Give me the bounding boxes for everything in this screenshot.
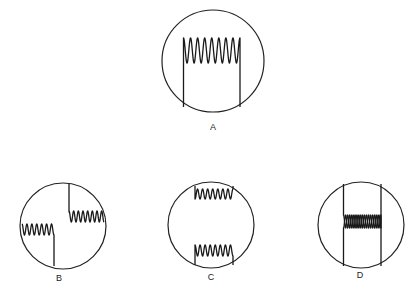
panel-label-b: B xyxy=(56,273,62,283)
scope-screen-a xyxy=(162,10,264,112)
panel-d xyxy=(318,182,404,268)
panel-a xyxy=(162,10,264,112)
panel-label-c: C xyxy=(208,272,215,282)
oscilloscope-figure xyxy=(0,0,419,297)
panel-label-a: A xyxy=(210,122,216,132)
waveform-c-bottom xyxy=(195,245,233,265)
waveform-c-top xyxy=(195,186,233,199)
panel-c xyxy=(168,182,254,268)
panel-label-d: D xyxy=(357,270,364,280)
waveform-b-left xyxy=(22,224,54,266)
panel-b xyxy=(20,183,106,269)
waveform-a xyxy=(184,38,241,107)
waveform-d-1 xyxy=(344,184,382,266)
